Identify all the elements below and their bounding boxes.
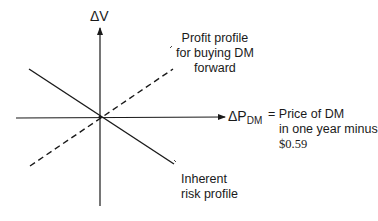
- profit-label-line: Profit profile: [176, 31, 254, 46]
- equals-sign: =: [268, 107, 275, 121]
- profit-label-line: for buying DM: [176, 46, 254, 61]
- x-axis-subscript: DM: [247, 115, 263, 126]
- risk-leader: [174, 160, 176, 162]
- definition-line: Price of DM: [279, 107, 344, 121]
- risk-label-line: risk profile: [181, 187, 238, 202]
- profit-profile-label: Profit profile for buying DM forward: [176, 31, 254, 76]
- definition-line: $0.59: [268, 137, 378, 152]
- risk-profile-label: Inherent risk profile: [181, 172, 238, 202]
- inherent-risk-line: [29, 69, 174, 164]
- profit-leader: [170, 46, 172, 48]
- definition-line: in one year minus: [268, 122, 378, 137]
- origin-dot: [99, 116, 102, 119]
- x-axis-label: ΔPDM: [228, 109, 262, 128]
- y-axis-symbol: ΔV: [90, 8, 109, 24]
- x-axis-definition: = Price of DM in one year minus $0.59: [268, 107, 378, 152]
- x-axis-symbol: ΔP: [228, 108, 247, 124]
- y-axis-label: ΔV: [90, 9, 109, 24]
- profit-label-line: forward: [176, 61, 254, 76]
- risk-label-line: Inherent: [181, 172, 238, 187]
- x-axis: [16, 117, 225, 118]
